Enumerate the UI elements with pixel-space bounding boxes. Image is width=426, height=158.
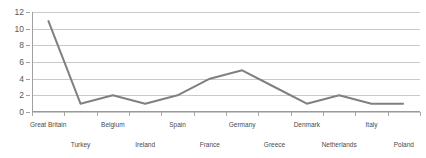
data-series-line	[32, 12, 420, 112]
x-axis-category-label: Italy	[366, 122, 378, 129]
y-axis: 024681012	[0, 12, 30, 112]
x-axis-category-label: Netherlands	[322, 142, 357, 149]
y-axis-tick-label: 10	[15, 24, 24, 33]
x-axis-category-label: Spain	[169, 122, 186, 129]
x-axis-category-label: Belgium	[101, 122, 124, 129]
x-axis-category-label: Ireland	[135, 142, 155, 149]
x-axis-category-label: Turkey	[71, 142, 91, 149]
x-axis-category-label: Great Britain	[30, 122, 67, 129]
line-chart: 024681012 Great BritainTurkeyBelgiumIrel…	[0, 0, 426, 158]
y-axis-tick-mark	[26, 79, 30, 80]
series-polyline	[48, 20, 404, 103]
x-axis-category-label: Denmark	[294, 122, 320, 129]
x-axis-category-label: Poland	[394, 142, 414, 149]
y-axis-tick-label: 8	[19, 41, 24, 50]
y-axis-tick-mark	[26, 62, 30, 63]
y-axis-tick-label: 12	[15, 8, 24, 17]
y-axis-tick-label: 4	[19, 74, 24, 83]
plot-area	[32, 12, 420, 112]
y-axis-tick-label: 6	[19, 58, 24, 67]
y-axis-tick-mark	[26, 95, 30, 96]
y-axis-tick-mark	[26, 29, 30, 30]
y-axis-tick-mark	[26, 45, 30, 46]
x-axis-category-label: France	[200, 142, 220, 149]
x-axis-category-label: Greece	[264, 142, 285, 149]
y-axis-tick-mark	[26, 112, 30, 113]
x-axis-labels: Great BritainTurkeyBelgiumIrelandSpainFr…	[0, 116, 426, 156]
y-axis-tick-label: 0	[19, 108, 24, 117]
y-axis-tick-mark	[26, 12, 30, 13]
x-axis-category-label: Germany	[229, 122, 256, 129]
y-axis-tick-label: 2	[19, 91, 24, 100]
